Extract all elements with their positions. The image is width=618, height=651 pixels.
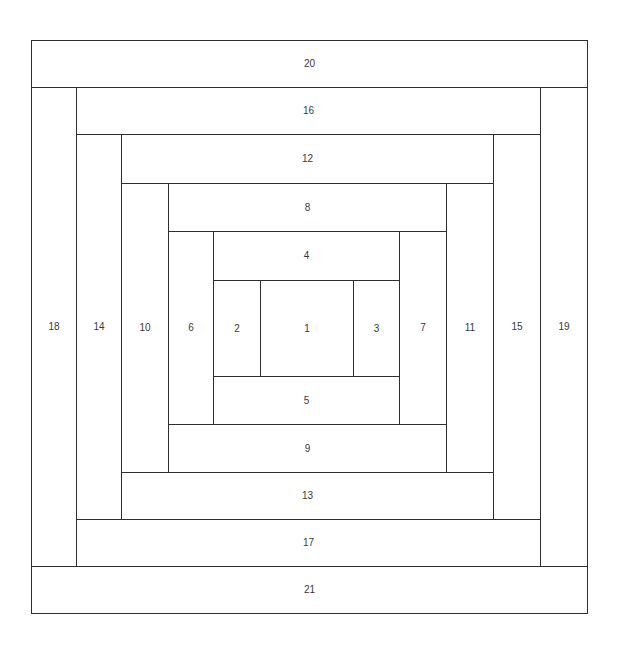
- piece-label: 6: [188, 323, 194, 333]
- piece-label: 10: [139, 323, 150, 333]
- piece-label: 13: [302, 491, 313, 501]
- piece-12: 12: [121, 134, 494, 184]
- piece-2: 2: [213, 280, 261, 377]
- piece-6: 6: [168, 231, 214, 425]
- piece-4: 4: [213, 231, 400, 281]
- piece-21: 21: [31, 566, 588, 614]
- piece-label: 19: [558, 322, 569, 332]
- piece-3: 3: [353, 280, 400, 377]
- piece-label: 11: [465, 323, 475, 333]
- piece-label: 21: [304, 585, 315, 595]
- piece-label: 18: [48, 322, 59, 332]
- piece-label: 3: [374, 324, 380, 334]
- piece-17: 17: [76, 519, 541, 567]
- piece-label: 20: [304, 59, 315, 69]
- piece-label: 9: [305, 444, 311, 454]
- piece-15: 15: [493, 134, 541, 520]
- piece-14: 14: [76, 134, 122, 520]
- piece-16: 16: [76, 87, 541, 135]
- piece-label: 16: [303, 106, 314, 116]
- piece-9: 9: [168, 424, 447, 473]
- piece-label: 12: [302, 154, 313, 164]
- piece-20: 20: [31, 40, 588, 88]
- piece-label: 4: [304, 251, 310, 261]
- piece-label: 8: [305, 203, 311, 213]
- piece-label: 5: [304, 396, 310, 406]
- piece-label: 1: [304, 324, 310, 334]
- piece-13: 13: [121, 472, 494, 520]
- piece-7: 7: [399, 231, 447, 425]
- piece-5: 5: [213, 376, 400, 425]
- piece-label: 14: [93, 322, 104, 332]
- piece-label: 2: [234, 324, 240, 334]
- piece-8: 8: [168, 183, 447, 232]
- piece-11: 11: [446, 183, 494, 473]
- piece-label: 15: [511, 322, 522, 332]
- piece-19: 19: [540, 87, 588, 567]
- piece-1: 1: [260, 280, 354, 377]
- piece-18: 18: [31, 87, 77, 567]
- piece-label: 17: [303, 538, 314, 548]
- piece-label: 7: [420, 323, 426, 333]
- piece-10: 10: [121, 183, 169, 473]
- log-cabin-block: 1 2 3 4 5 6 7 8 9 10 11 12 13 14 15 16 1…: [0, 0, 618, 651]
